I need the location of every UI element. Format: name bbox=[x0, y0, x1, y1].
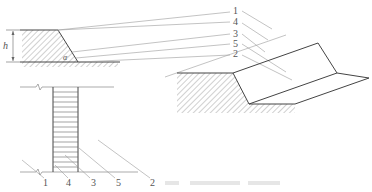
iso-leaders bbox=[165, 11, 292, 80]
plan-callout-5: 5 bbox=[116, 177, 121, 188]
height-dimension: h bbox=[3, 30, 20, 62]
caption-placeholder bbox=[165, 181, 179, 185]
plan-view: 1 4 3 5 2 bbox=[20, 84, 155, 188]
cross-section-view: h α bbox=[3, 12, 230, 67]
plan-callout-2: 2 bbox=[150, 177, 155, 188]
isometric-view bbox=[177, 43, 369, 113]
callout-4: 4 bbox=[233, 16, 238, 27]
plan-callout-1: 1 bbox=[43, 177, 48, 188]
callout-2: 2 bbox=[233, 48, 238, 59]
caption-placeholder bbox=[248, 181, 280, 185]
section-leaders bbox=[58, 12, 230, 62]
caption-placeholder bbox=[190, 181, 240, 185]
iso-callouts: 1 4 3 5 2 bbox=[233, 5, 238, 59]
slope-protection-diagram: h α 1 4 3 5 2 bbox=[0, 0, 372, 192]
height-label: h bbox=[3, 40, 8, 51]
plan-callout-3: 3 bbox=[91, 177, 96, 188]
callout-1: 1 bbox=[233, 5, 238, 16]
plan-callout-4: 4 bbox=[66, 177, 71, 188]
